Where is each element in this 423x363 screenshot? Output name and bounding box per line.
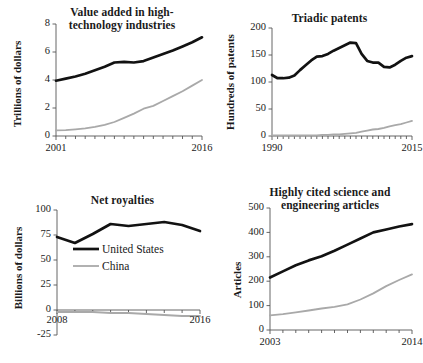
y-tick-2: 2 (28, 101, 50, 112)
y-tick-50: 50 (240, 102, 266, 113)
y-tick-300: 300 (236, 250, 264, 261)
plot-svg-triadic-patents (272, 28, 412, 136)
y-axis-label-triadic-patents: Hundreds of patents (224, 25, 236, 140)
legend-label-united-states: United States (102, 243, 164, 255)
series-line-china (56, 80, 202, 130)
y-tick-150: 150 (240, 48, 266, 59)
plot-area-highly-cited-articles: 0 100 200 300 400 500 2003 2014 (270, 208, 412, 330)
legend-swatch-united-states (73, 245, 99, 253)
plot-area-value-added: 0 2 4 6 8 2001 2016 (56, 24, 202, 136)
title-line-1: Triadic patents (242, 12, 417, 25)
y-tick-100: 100 (236, 299, 264, 310)
legend-item-united-states: United States (73, 240, 164, 257)
y-tick-0: 0 (23, 303, 51, 314)
y-tick-200: 200 (236, 274, 264, 285)
panel-title-triadic-patents: Triadic patents (242, 12, 417, 25)
legend-item-china: China (73, 257, 164, 274)
y-tick-100: 100 (240, 75, 266, 86)
title-line-1: Highly cited science and (240, 186, 420, 199)
x-tick-end: 2015 (394, 142, 423, 153)
series-line-china (272, 121, 412, 136)
y-tick-0: 0 (240, 129, 266, 140)
y-tick-6: 6 (28, 45, 50, 56)
y-tick-200: 200 (240, 21, 266, 32)
plot-svg-value-added (56, 24, 202, 136)
x-tick-start: 2001 (38, 142, 74, 153)
y-tick-25: 25 (23, 278, 51, 289)
y-tick-75: 75 (23, 228, 51, 239)
x-tick-start: 2003 (252, 336, 288, 347)
series-line-united-states (270, 224, 412, 277)
panel-value-added: Value added in high- technology industri… (0, 0, 212, 182)
y-axis-ticks (267, 208, 271, 330)
plot-svg-highly-cited-articles (270, 208, 412, 330)
y-tick-400: 400 (236, 226, 264, 237)
x-tick-start: 2008 (39, 314, 75, 325)
x-tick-start: 1990 (254, 142, 290, 153)
series-line-united-states (56, 37, 202, 80)
legend-label-china: China (102, 260, 129, 272)
y-tick-50: 50 (23, 253, 51, 264)
chart-legend: United States China (73, 240, 164, 274)
y-tick-8: 8 (28, 17, 50, 28)
panel-highly-cited-articles: Highly cited science and engineering art… (212, 182, 423, 363)
panel-triadic-patents: Triadic patents Hundreds of patents (212, 0, 423, 182)
y-axis-ticks (269, 28, 273, 136)
plot-area-net-royalties: -25 0 25 50 75 100 2008 2016 United Stat… (57, 210, 200, 335)
y-tick-0: 0 (28, 129, 50, 140)
series-line-china (270, 274, 412, 315)
series-line-united-states (272, 43, 412, 79)
y-tick-minus25: -25 (23, 328, 51, 339)
legend-swatch-china (73, 262, 99, 270)
y-axis-label-value-added: Trillions of dollars (11, 29, 23, 139)
series-line-china (57, 312, 200, 316)
y-tick-500: 500 (236, 201, 264, 212)
y-tick-0: 0 (236, 323, 264, 334)
title-line-1: Net royalties (40, 194, 205, 207)
panel-net-royalties: Net royalties Billions of dollars (0, 182, 212, 363)
x-axis-ticks (270, 330, 412, 334)
multi-panel-chart-figure: Value added in high- technology industri… (0, 0, 423, 363)
x-axis-ticks (56, 136, 202, 140)
x-axis-ticks (272, 136, 412, 140)
y-tick-100: 100 (23, 203, 51, 214)
x-tick-end: 2014 (394, 336, 423, 347)
panel-title-net-royalties: Net royalties (40, 194, 205, 207)
y-tick-4: 4 (28, 73, 50, 84)
title-line-1: Value added in high- (38, 6, 206, 19)
plot-area-triadic-patents: 0 50 100 150 200 1990 2015 (272, 28, 412, 136)
